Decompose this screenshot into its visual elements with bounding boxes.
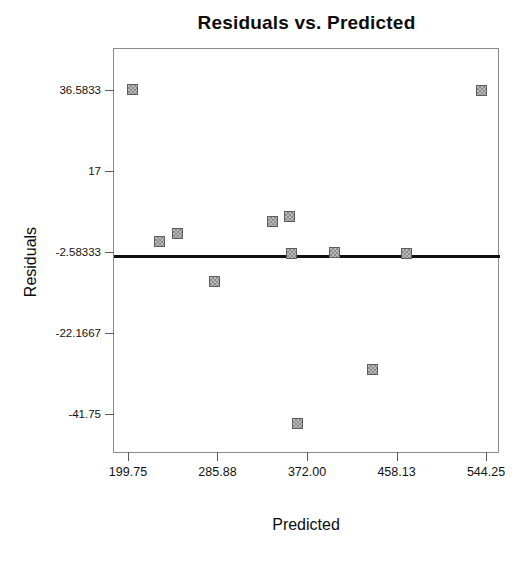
- plot-inner: 36.583317-2.58333-22.1667-41.75 199.7528…: [114, 49, 498, 452]
- data-point: [209, 276, 220, 287]
- data-point: [154, 236, 165, 247]
- x-axis-tick-label: 372.00: [288, 465, 326, 479]
- residuals-vs-predicted-chart: Residuals vs. Predicted 36.583317-2.5833…: [0, 0, 530, 568]
- x-axis-tick: [397, 452, 398, 461]
- y-axis-tick: [105, 252, 114, 253]
- data-point: [267, 216, 278, 227]
- data-point: [172, 228, 183, 239]
- data-point: [284, 211, 295, 222]
- y-axis-title: Residuals: [22, 227, 40, 297]
- x-axis-tick: [217, 452, 218, 461]
- y-axis-tick: [105, 171, 114, 172]
- x-axis-tick: [486, 452, 487, 461]
- x-axis-tick-label: 199.75: [109, 465, 147, 479]
- x-axis-title: Predicted: [113, 516, 499, 534]
- data-point: [401, 248, 412, 259]
- y-axis-tick: [105, 414, 114, 415]
- data-point: [286, 248, 297, 259]
- x-axis-tick-label: 285.88: [198, 465, 236, 479]
- y-axis-tick: [105, 333, 114, 334]
- plot-area: 36.583317-2.58333-22.1667-41.75 199.7528…: [113, 48, 499, 453]
- y-axis-tick-label: -2.58333: [56, 246, 101, 258]
- x-axis-tick: [128, 452, 129, 461]
- y-axis-tick-label: 36.5833: [59, 84, 101, 96]
- zero-reference-line: [114, 255, 500, 258]
- data-point: [476, 85, 487, 96]
- data-point: [292, 418, 303, 429]
- y-axis-tick-label: -22.1667: [56, 327, 101, 339]
- data-point: [127, 84, 138, 95]
- x-axis-tick-label: 458.13: [377, 465, 415, 479]
- data-point: [329, 247, 340, 258]
- y-axis-tick-label: 17: [88, 165, 101, 177]
- x-axis-tick: [307, 452, 308, 461]
- x-axis-tick-label: 544.25: [467, 465, 505, 479]
- y-axis-tick: [105, 90, 114, 91]
- data-point: [367, 364, 378, 375]
- chart-title: Residuals vs. Predicted: [113, 12, 500, 34]
- y-axis-tick-label: -41.75: [68, 408, 101, 420]
